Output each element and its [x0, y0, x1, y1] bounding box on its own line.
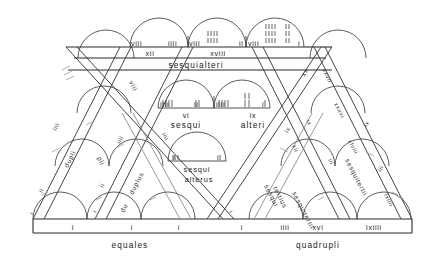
alteri-word-right: alteri: [241, 120, 266, 130]
faint-tally-marks: [42, 66, 404, 200]
top-row-arc-group: viii iiii viii ii viii i: [128, 18, 306, 48]
band-value-xviii: xviii: [210, 49, 225, 58]
left-band-duplus-label: duplus: [128, 171, 146, 196]
left-band-dupli-num2: ii: [38, 187, 45, 193]
left-band-dupli-label: dupli: [63, 149, 78, 169]
right-inner-num-xii: xii: [291, 144, 300, 154]
right-band-xx-label: xx: [300, 67, 310, 77]
right-band-ix-label: ix: [363, 120, 371, 128]
baseline-value-7: lxiiii: [366, 223, 382, 232]
top-arc3-right-value: i: [298, 39, 300, 48]
sesqui-word-left: sesqui: [171, 120, 202, 130]
inner-arc-right-value: i: [217, 153, 219, 162]
right-inner-num-ix: ix: [305, 119, 313, 127]
left-band-du-label: du: [119, 202, 129, 213]
right-band-ix-num2: iii: [377, 164, 385, 172]
baseline-value-5: iiii: [280, 223, 289, 232]
proportion-diagram-svg: ii i sesqui alterus iiii ii iiii i vi ix…: [0, 0, 441, 256]
right-band-sesquitertii-label: sesquitertii: [343, 157, 369, 197]
middle-value-left: vi: [183, 111, 190, 120]
left-band-duplus-num2: ii: [99, 182, 106, 188]
top-arc3-left-value: viii: [248, 39, 259, 48]
sesquialteri-band: xii xviii sesquialteri: [66, 47, 332, 70]
band-value-xii: xii: [146, 49, 155, 58]
right-band-num-xlviii: xlviii: [347, 139, 359, 155]
sesqui-alterus-line2: alterus: [185, 175, 213, 184]
right-band-xi-label: ix: [284, 126, 292, 134]
quadrupli-label: quadrupli: [296, 240, 340, 250]
middle-arc1-right-value: ii: [194, 100, 199, 109]
sesquialteri-label: sesquialteri: [168, 60, 223, 70]
middle-arc2-right-value: i: [262, 100, 264, 109]
left-rising-num3: i: [228, 210, 234, 215]
left-band-pli-label: pli: [95, 155, 106, 167]
baseline-value-4: i: [241, 223, 243, 232]
right-inner-num-iii: iii: [327, 158, 335, 166]
right-inner-sesquitertii-label: sesquitertii: [290, 190, 316, 230]
right-band-num-xxxvi: xxxvi: [333, 102, 346, 120]
equales-label: equales: [112, 240, 149, 250]
middle-value-right: ix: [250, 111, 257, 120]
sesqui-alterus-line1: sesqui: [184, 165, 211, 174]
top-arc1-right-value: iiii: [168, 39, 177, 48]
middle-row-arc-group: iiii ii iiii i vi ix sesqui alteri: [158, 80, 270, 130]
top-arc2-right-value: ii: [239, 39, 244, 48]
right-diagonal-labels: sesquitertii xxvii xxxvi xlviii lxiiii s…: [284, 67, 395, 231]
baseline-box: i i i i iiii xvi lxiiii equales quadrupl…: [33, 219, 412, 250]
baseline-value-3: i: [178, 223, 180, 232]
left-band-duplus-num3: i: [92, 209, 98, 214]
top-arc1-left-value: viii: [131, 39, 142, 48]
right-diagonal-bands: [207, 47, 412, 219]
right-band-num-lxiiii: lxiiii: [383, 193, 395, 208]
left-band-viii-label: viii: [128, 79, 139, 92]
baseline-value-2: i: [131, 223, 133, 232]
diagram-canvas: ii i sesqui alterus iiii ii iiii i vi ix…: [0, 0, 441, 256]
left-band-duplus-num1: iiii: [116, 135, 125, 145]
middle-arc2-left-value: iiii: [216, 100, 225, 109]
inner-center-arc-group: ii i sesqui alterus: [168, 132, 226, 184]
baseline-value-1: i: [72, 223, 74, 232]
top-arc2-left-value: viii: [189, 39, 200, 48]
left-band-dupli-num1: iiii: [52, 122, 61, 132]
